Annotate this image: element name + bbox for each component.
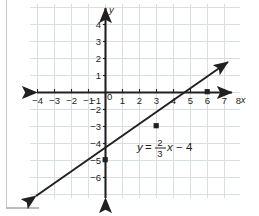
- x-tick-label: 1: [120, 95, 125, 106]
- x-tick-label: 7: [222, 95, 227, 106]
- x-tick-label: 3: [154, 95, 159, 106]
- x-tick-label: −3: [49, 95, 60, 106]
- y-tick-label: −6: [90, 172, 101, 183]
- y-tick-label: 2: [96, 53, 101, 64]
- origin-label: 0: [107, 91, 112, 102]
- page-canvas: −4 −3 −2 −1 1 2 3 4 5 6 7 8 4 3 2 1 −1 −…: [0, 0, 259, 216]
- y-tick-label: −4: [90, 138, 101, 149]
- point-x-intercept: [205, 89, 210, 94]
- x-tick-label: 5: [188, 95, 193, 106]
- y-tick-label: 4: [96, 19, 101, 30]
- x-tick-label: 2: [137, 95, 142, 106]
- x-axis-label: x: [240, 94, 247, 105]
- x-tick-label: −4: [32, 95, 43, 106]
- graph-figure: −4 −3 −2 −1 1 2 3 4 5 6 7 8 4 3 2 1 −1 −…: [0, 0, 259, 216]
- equation-equals: =: [145, 141, 152, 153]
- x-tick-label: 6: [205, 95, 210, 106]
- point-midpoint: [154, 123, 159, 128]
- y-tick-label: 1: [96, 70, 101, 81]
- point-y-intercept: [103, 157, 108, 162]
- y-tick-label: −3: [90, 121, 101, 132]
- equation-constant: 4: [186, 141, 193, 153]
- x-tick-label: −2: [66, 95, 77, 106]
- equation-denominator: 3: [157, 148, 162, 159]
- y-tick-label: −2: [90, 104, 101, 115]
- equation-numerator: 2: [157, 137, 162, 148]
- y-tick-label: 3: [96, 36, 101, 47]
- equation-minus: −: [176, 141, 183, 153]
